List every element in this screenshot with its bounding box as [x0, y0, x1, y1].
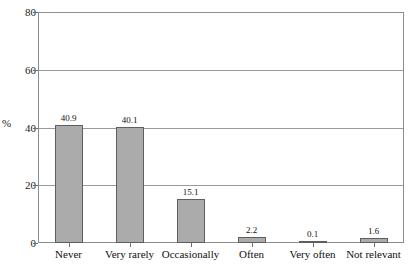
y-tick-mark-40	[33, 128, 38, 129]
bar-occasionally	[177, 199, 205, 243]
y-tick-label-40: 40	[2, 123, 36, 133]
bar-value-label-very-often: 0.1	[293, 230, 333, 239]
gridline-40	[39, 128, 403, 129]
bar-value-label-very-rarely: 40.1	[110, 116, 150, 125]
y-tick-label-80: 80	[2, 7, 36, 17]
bar-value-label-often: 2.2	[232, 226, 272, 235]
y-tick-mark-80	[33, 12, 38, 13]
bar-value-label-never: 40.9	[49, 114, 89, 123]
x-tick-mark-2	[191, 243, 192, 247]
y-axis-ticks: 020406080	[0, 0, 36, 266]
bar-never	[55, 125, 83, 243]
y-tick-mark-0	[33, 243, 38, 244]
x-axis-label-not-relevant: Not relevant	[329, 248, 418, 261]
y-tick-mark-60	[33, 70, 38, 71]
y-tick-mark-20	[33, 185, 38, 186]
gridline-60	[39, 70, 403, 71]
x-tick-mark-5	[374, 243, 375, 247]
plot-area	[38, 12, 404, 243]
y-tick-label-60: 60	[2, 65, 36, 75]
x-tick-mark-1	[130, 243, 131, 247]
y-tick-label-0: 0	[2, 238, 36, 248]
gridline-20	[39, 185, 403, 186]
chart-title	[0, 0, 418, 1]
bar-very-rarely	[116, 127, 144, 243]
x-tick-mark-4	[313, 243, 314, 247]
bar-value-label-not-relevant: 1.6	[354, 227, 394, 236]
y-tick-label-20: 20	[2, 180, 36, 190]
x-tick-mark-3	[252, 243, 253, 247]
bar-chart: % 020406080 40.940.115.12.20.11.6 NeverV…	[0, 0, 418, 266]
x-tick-mark-0	[69, 243, 70, 247]
bar-value-label-occasionally: 15.1	[171, 188, 211, 197]
